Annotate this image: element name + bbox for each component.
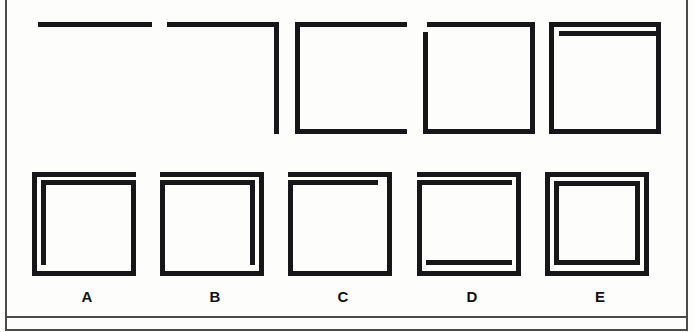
figure-5-right-edge bbox=[656, 22, 661, 134]
page-frame-footer-rule bbox=[5, 329, 688, 331]
figure-2[interactable] bbox=[167, 18, 285, 136]
option-d-label: D bbox=[452, 288, 492, 305]
option-d-outer-top-edge bbox=[417, 172, 521, 177]
option-b-outer-right-edge bbox=[259, 172, 264, 276]
option-d-outer-right-edge bbox=[516, 172, 521, 276]
option-b-outer-top-edge bbox=[160, 172, 264, 177]
figure-4-bottom-edge bbox=[423, 129, 535, 134]
puzzle-sheet: A B C D E bbox=[0, 0, 694, 332]
page-frame-footer-left-edge bbox=[5, 316, 7, 331]
option-a[interactable] bbox=[32, 172, 142, 282]
option-e-inner-top-edge bbox=[554, 181, 640, 186]
option-a-label: A bbox=[67, 288, 107, 305]
figure-4-top-edge bbox=[427, 22, 535, 27]
option-d-outer-bottom-edge bbox=[417, 271, 521, 276]
option-a-outer-bottom-edge bbox=[32, 271, 136, 276]
option-d-inner-top-edge bbox=[417, 180, 512, 185]
page-frame-footer-right-edge bbox=[686, 316, 688, 331]
option-c-outer-top-edge bbox=[288, 172, 392, 177]
option-b-label: B bbox=[195, 288, 235, 305]
option-a-inner-left-edge bbox=[41, 180, 46, 265]
figure-4-right-edge bbox=[530, 22, 535, 134]
option-b-inner-right-edge bbox=[250, 180, 255, 265]
option-e-inner-right-edge bbox=[635, 181, 640, 265]
option-c-outer-bottom-edge bbox=[288, 271, 392, 276]
option-d-inner-bottom-edge bbox=[426, 260, 512, 265]
option-a-inner-top-edge bbox=[41, 180, 136, 185]
figure-4-left-edge bbox=[423, 32, 428, 134]
figure-3-bottom-edge bbox=[295, 129, 407, 134]
option-e-label: E bbox=[580, 288, 620, 305]
option-e-outer-top-edge bbox=[545, 172, 649, 177]
option-d[interactable] bbox=[417, 172, 527, 282]
option-a-outer-top-edge bbox=[32, 172, 136, 177]
page-frame-right-rule bbox=[686, 0, 688, 318]
option-b-inner-top-edge bbox=[160, 180, 255, 185]
option-c-label: C bbox=[323, 288, 363, 305]
option-b-outer-bottom-edge bbox=[160, 271, 264, 276]
figure-5-top-edge bbox=[549, 22, 661, 27]
option-c-outer-left-edge bbox=[288, 180, 293, 276]
option-c-inner-top-edge bbox=[288, 180, 378, 185]
figure-5[interactable] bbox=[549, 18, 667, 136]
option-e[interactable] bbox=[545, 172, 655, 282]
option-e-outer-left-edge bbox=[545, 172, 550, 276]
figure-1-top-edge bbox=[38, 22, 152, 27]
option-b[interactable] bbox=[160, 172, 270, 282]
figure-4[interactable] bbox=[423, 18, 541, 136]
page-frame-bottom-rule bbox=[5, 316, 688, 318]
option-e-outer-bottom-edge bbox=[545, 271, 649, 276]
figure-3-top-edge bbox=[295, 22, 407, 27]
figure-3[interactable] bbox=[295, 18, 413, 136]
figure-2-right-edge bbox=[274, 22, 279, 134]
option-e-inner-bottom-edge bbox=[554, 260, 635, 265]
figure-1[interactable] bbox=[38, 18, 156, 136]
option-c[interactable] bbox=[288, 172, 398, 282]
figure-5-inner-top-edge bbox=[559, 31, 661, 36]
figure-5-left-edge bbox=[549, 22, 554, 134]
option-d-inner-left-edge bbox=[417, 180, 422, 265]
figure-3-left-edge bbox=[295, 22, 300, 134]
option-a-outer-left-edge bbox=[32, 172, 37, 276]
page-frame-left-rule bbox=[5, 0, 7, 318]
option-b-outer-left-edge bbox=[160, 180, 165, 276]
figure-5-bottom-edge bbox=[549, 129, 661, 134]
option-a-outer-right-edge bbox=[131, 180, 136, 276]
option-e-inner-left-edge bbox=[554, 181, 559, 265]
option-c-outer-right-edge bbox=[387, 172, 392, 276]
option-e-outer-right-edge bbox=[644, 172, 649, 276]
figure-2-top-edge bbox=[167, 22, 279, 27]
